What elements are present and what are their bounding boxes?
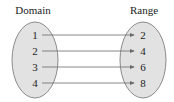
range-value: 2: [140, 29, 146, 41]
range-label: Range: [130, 4, 158, 16]
domain-value: 4: [32, 77, 38, 89]
domain-value: 3: [32, 61, 38, 73]
range-value: 6: [140, 61, 146, 73]
range-value: 4: [140, 45, 146, 57]
domain-value: 1: [32, 29, 38, 41]
range-value: 8: [140, 77, 146, 89]
domain-label: Domain: [15, 4, 51, 16]
domain-value: 2: [32, 45, 38, 57]
mapping-diagram: Domain Range 1 2 3 4 2 4 6 8: [0, 0, 174, 102]
